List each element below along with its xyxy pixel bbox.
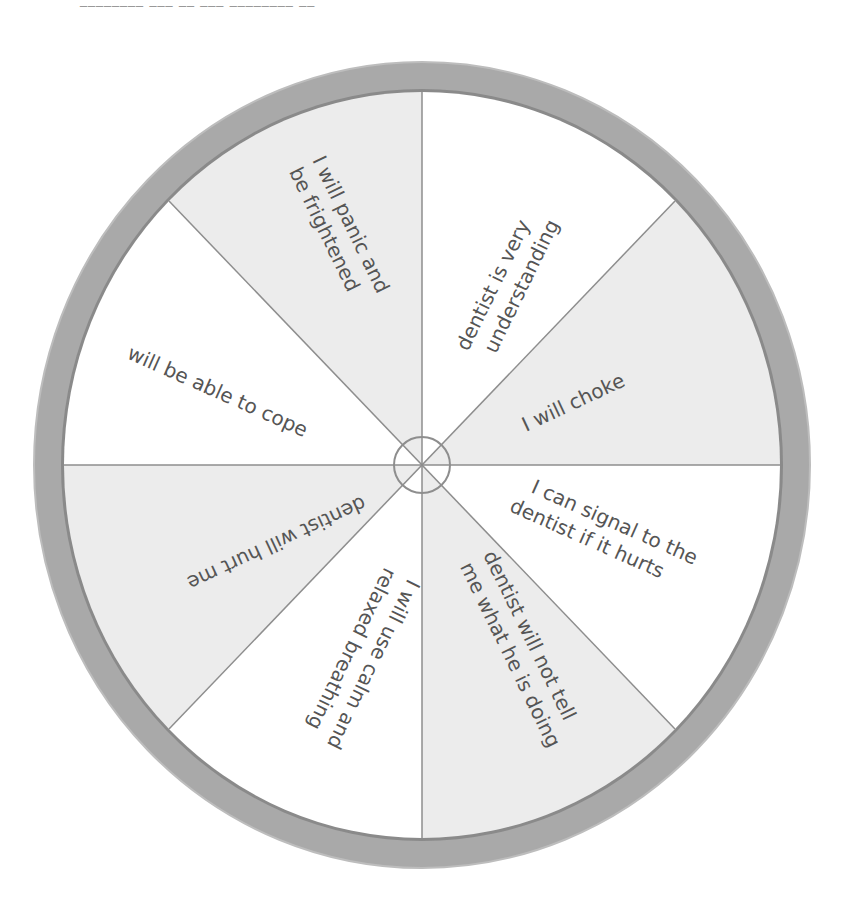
segment-dividers (64, 92, 780, 838)
thought-wheel: I will panic and be frightened dentist i… (0, 0, 848, 915)
